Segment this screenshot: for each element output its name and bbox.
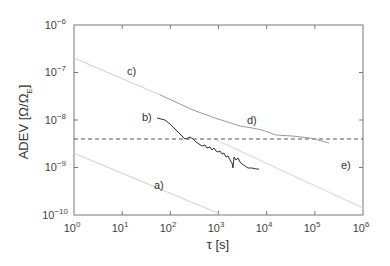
svg-text:10−7: 10−7 [45,64,67,78]
adev-chart: 100 101 102 103 104 105 106 10−6 10−7 10… [0,0,390,266]
svg-text:10−9: 10−9 [45,159,67,173]
label-b: b) [142,111,152,123]
series-lines [74,58,363,215]
y-ticks [74,73,363,168]
svg-text:100: 100 [64,220,81,234]
svg-text:103: 103 [208,220,225,234]
svg-text:106: 106 [353,220,370,234]
curve-labels: a) b) c) d) e) [127,65,351,191]
series-c-line [74,58,160,95]
svg-text:101: 101 [112,220,129,234]
svg-text:102: 102 [160,220,177,234]
y-axis-title: ADEV [Ω/ΩE] [16,85,34,160]
label-d: d) [247,114,257,126]
x-tick-labels: 100 101 102 103 104 105 106 [64,220,370,234]
svg-text:10−8: 10−8 [45,112,67,126]
series-d-line [160,95,329,143]
series-a-line [74,153,223,215]
x-axis-title: τ [s] [207,237,229,252]
series-b-line [157,118,259,169]
y-tick-labels: 10−6 10−7 10−8 10−9 10−10 [42,17,68,221]
svg-text:104: 104 [256,220,273,234]
label-c: c) [127,65,136,77]
plot-area [74,25,363,215]
series-e-line [214,139,363,208]
label-a: a) [154,179,164,191]
svg-text:105: 105 [304,220,321,234]
svg-text:10−6: 10−6 [45,17,67,31]
svg-text:10−10: 10−10 [42,207,68,221]
label-e: e) [341,159,351,171]
